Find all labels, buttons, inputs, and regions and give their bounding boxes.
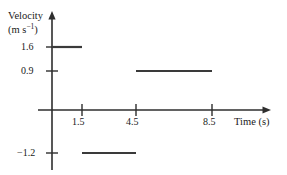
y-tick-label-1: 1.6 <box>21 42 34 52</box>
x-axis-arrowhead <box>263 107 272 114</box>
chart-canvas <box>0 0 287 175</box>
y-axis-arrowhead <box>48 11 55 20</box>
x-axis-title: Time (s) <box>234 117 270 128</box>
y-tick-label-2: 0.9 <box>21 66 34 76</box>
y-axis-title: Velocity <box>8 11 43 22</box>
x-tick-label-1: 1.5 <box>72 117 85 127</box>
x-tick-label-2: 4.5 <box>126 117 139 127</box>
x-tick-label-3: 8.5 <box>203 117 216 127</box>
y-tick-label-3: −1.2 <box>17 148 35 158</box>
y-axis-unit-label: (m s−1) <box>8 25 38 36</box>
velocity-time-chart: Velocity (m s−1) Time (s) 1.6 0.9 −1.2 1… <box>0 0 287 175</box>
